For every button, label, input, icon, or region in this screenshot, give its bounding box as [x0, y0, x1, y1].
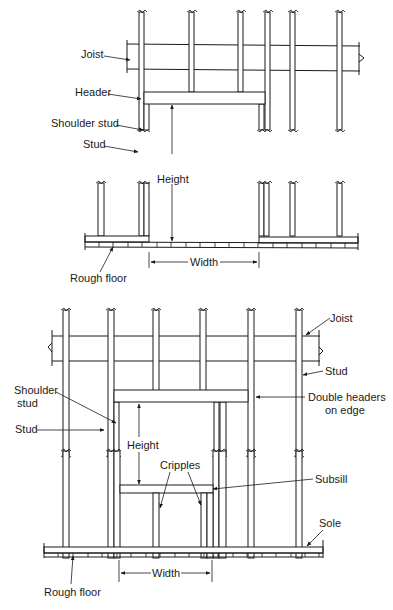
height-label-bottom: Height [127, 439, 159, 451]
window-opening-framing: Height Width Joist Stud Shoulder stud St… [14, 308, 386, 598]
sole-label: Sole [319, 517, 341, 529]
height-label-top: Height [157, 173, 189, 185]
door-opening-framing: Height Height Width Joist Header Shoulde… [51, 10, 364, 284]
rough-floor-label-top: Rough floor [70, 272, 127, 284]
header-label-top: Header [75, 86, 111, 98]
lower-studs [96, 181, 345, 236]
joist-label-top: Joist [81, 48, 104, 60]
shoulder-stud-label-top: Shoulder stud [51, 117, 119, 129]
double-headers-label-1: Double headers [308, 391, 386, 403]
stud-right-label-bottom: Stud [325, 365, 348, 377]
subsill-label: Subsill [315, 473, 347, 485]
joist-label-bottom: Joist [330, 312, 353, 324]
cripples-label: Cripples [160, 459, 201, 471]
double-header [114, 390, 248, 402]
joist-bottom [48, 330, 323, 366]
wall-framing-diagram: Height Height Width Joist Header Shoulde… [0, 0, 393, 610]
upper-studs-bottom [61, 308, 304, 458]
width-label-top: Width [190, 256, 218, 268]
header [144, 92, 265, 104]
width-label-bottom: Width [152, 567, 180, 579]
joist-top [127, 40, 364, 75]
double-headers-label-2: on edge [325, 404, 365, 416]
sole [44, 547, 323, 553]
shoulder-stud-label-bottom-2: stud [17, 397, 38, 409]
stud-label-top: Stud [83, 138, 106, 150]
shoulder-stud-label-bottom-1: Shoulder [14, 384, 58, 396]
rough-floor-label-bottom: Rough floor [44, 586, 101, 598]
subsill [120, 485, 213, 493]
stud-left-label-bottom: Stud [15, 423, 38, 435]
